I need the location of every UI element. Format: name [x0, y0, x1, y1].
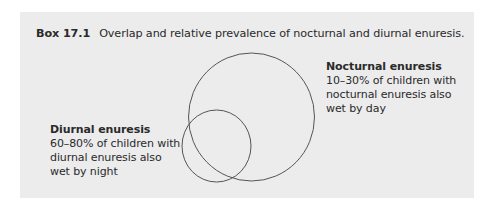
diurnal-circle	[182, 110, 251, 182]
nocturnal-heading: Nocturnal enuresis	[326, 60, 456, 74]
nocturnal-label: Nocturnal enuresis 10–30% of children wi…	[326, 60, 456, 116]
box-17-1: Box 17.1Overlap and relative prevalence …	[20, 12, 474, 198]
diurnal-label: Diurnal enuresis 60–80% of children with…	[50, 123, 180, 179]
nocturnal-line: nocturnal enuresis also	[326, 88, 456, 102]
diurnal-line: diurnal enuresis also	[50, 151, 180, 165]
nocturnal-line: 10–30% of children with	[326, 74, 456, 88]
diurnal-heading: Diurnal enuresis	[50, 123, 180, 137]
diurnal-line: wet by night	[50, 165, 180, 179]
nocturnal-line: wet by day	[326, 102, 456, 116]
diurnal-line: 60–80% of children with	[50, 137, 180, 151]
nocturnal-circle	[189, 53, 315, 181]
